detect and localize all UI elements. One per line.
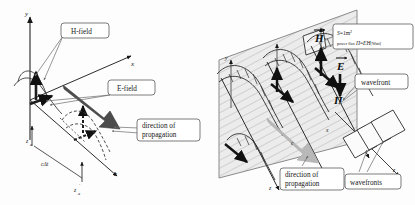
formula-area-exponent: 2 [350,29,352,34]
axis-label-z-right: z [268,185,272,191]
e-field-vector [30,96,52,104]
callout-direction-right-line2: propagation [285,180,320,188]
callout-direction-line1: direction of [142,122,176,130]
callout-direction-right-line1: direction of [285,171,319,179]
left-panel: y x z [0,0,207,205]
callout-e-field: E-field [46,80,155,105]
axis-label-z: z [113,170,117,178]
formula-flux: power flux Π=EH[Watt] [337,40,382,46]
formula-flux-unit: [Watt] [371,41,382,46]
right-panel: y [207,0,415,205]
axis-label-y-right: y [224,55,228,61]
callout-h-field-label: H-field [71,28,92,36]
e-field-vector-dashed [74,131,96,140]
formula-area: S=1m2 [337,29,352,36]
callout-direction-line2: propagation [142,131,177,139]
h-field-wave-curve [18,71,48,100]
axis-label-x-right: x [325,127,329,133]
e-field-wave-curve [14,78,62,114]
poynting-vector-symbol: Π [333,94,343,106]
callout-wavefronts-label: wavefronts [350,179,382,187]
distance-label: cΔt [41,161,49,167]
callout-power-flux: S=1m2 power flux Π=EH[Watt] [322,24,413,49]
figure-root: y x z [0,0,415,205]
z-end-prime: ′ [79,183,80,188]
callout-e-field-label: E-field [117,85,137,93]
formula-flux-prefix: power flux [337,41,356,46]
z-start-symbol: z [25,138,29,144]
formula-area-value: =1m [340,30,351,36]
z-end-symbol: z [73,187,77,193]
callout-h-field: H-field [35,23,109,80]
z-end-subscript: a [78,191,80,196]
e-vector-symbol: E [336,60,344,72]
z-start-label: z a [25,138,32,147]
axis-label-y: y [24,10,29,18]
callout-direction-of-propagation: direction of propagation [112,119,200,141]
z-start-subscript: a [30,142,32,147]
h-vector-symbol: H [314,32,324,44]
z-end-label: z a ′ [73,183,80,196]
axis-label-x: x [130,60,135,68]
callout-wavefront-label: wavefront [361,79,390,87]
